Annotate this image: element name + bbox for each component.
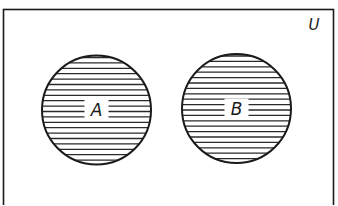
set-a-circle: A <box>42 56 151 165</box>
universe-label: U <box>309 16 320 34</box>
set-b-label: B <box>231 99 243 119</box>
set-b-circle: B <box>182 54 291 163</box>
set-a-label: A <box>90 100 103 120</box>
universe-rectangle <box>4 10 334 206</box>
venn-diagram: U A B <box>0 0 338 205</box>
